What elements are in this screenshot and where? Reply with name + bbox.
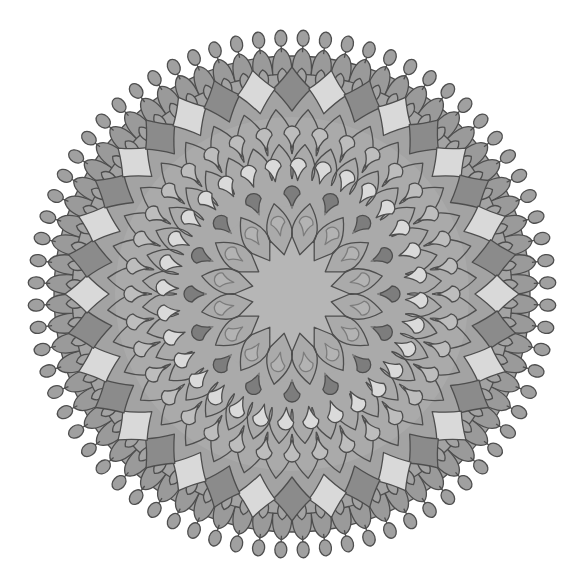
tip-bulb xyxy=(207,529,223,548)
tip-bulb xyxy=(340,35,355,53)
tip-bulb xyxy=(438,487,457,507)
tip-bulb xyxy=(274,30,287,47)
tip-bulb xyxy=(185,48,202,67)
tip-bulb xyxy=(297,30,310,47)
tip-bulb xyxy=(519,187,538,204)
tip-bulb xyxy=(66,422,86,441)
tip-bulb xyxy=(401,511,419,531)
tip-bulb xyxy=(340,535,355,553)
tip-bulb xyxy=(318,539,332,556)
tip-bulb xyxy=(527,363,546,379)
tip-bulb xyxy=(381,521,398,540)
tip-bulb xyxy=(420,68,439,88)
tip-bulb xyxy=(509,403,529,421)
tip-bulb xyxy=(318,31,332,48)
tip-bulb xyxy=(274,542,287,559)
tip-bulb xyxy=(537,320,554,334)
tip-bulb xyxy=(537,254,554,268)
tip-bulb xyxy=(485,440,505,459)
tip-bulb xyxy=(498,422,518,441)
tip-bulb xyxy=(438,81,457,101)
tip-bulb xyxy=(66,147,86,166)
tip-bulb xyxy=(252,539,266,556)
tip-bulb xyxy=(38,363,57,379)
tip-bulb xyxy=(165,57,183,77)
tip-bulb xyxy=(229,535,244,553)
tip-bulb xyxy=(540,276,557,289)
tip-bulb xyxy=(519,383,538,400)
tip-bulb xyxy=(55,167,75,185)
tip-bulb xyxy=(46,187,65,204)
tip-bulb xyxy=(165,511,183,531)
tip-bulb xyxy=(509,167,529,185)
tip-bulb xyxy=(145,500,164,520)
tip-bulb xyxy=(33,231,51,246)
tip-bulb xyxy=(38,209,57,225)
tip-bulb xyxy=(207,40,223,59)
tip-bulb xyxy=(420,500,439,520)
tip-bulb xyxy=(29,320,46,334)
tip-bulb xyxy=(485,129,505,148)
tip-bulb xyxy=(46,383,65,400)
tip-bulb xyxy=(540,299,557,312)
tip-bulb xyxy=(533,342,551,357)
tip-bulb xyxy=(127,487,146,507)
mandala-canvas xyxy=(0,0,569,587)
tip-bulb xyxy=(28,299,45,312)
tip-bulb xyxy=(79,129,99,148)
tip-bulb xyxy=(527,209,546,225)
tip-bulb xyxy=(297,542,310,559)
tip-bulb xyxy=(252,31,266,48)
center-star-shape xyxy=(234,236,350,352)
tip-bulb xyxy=(498,147,518,166)
tip-bulb xyxy=(127,81,146,101)
tip-bulb xyxy=(361,529,377,548)
tip-bulb xyxy=(401,57,419,77)
tip-bulb xyxy=(185,521,202,540)
tip-bulb xyxy=(361,40,377,59)
tip-bulb xyxy=(29,254,46,268)
tip-bulb xyxy=(33,342,51,357)
tip-bulb xyxy=(55,403,75,421)
tip-bulb xyxy=(145,68,164,88)
tip-bulb xyxy=(381,48,398,67)
tip-bulb xyxy=(28,276,45,289)
tip-bulb xyxy=(79,440,99,459)
center-star xyxy=(234,236,350,352)
tip-bulb xyxy=(533,231,551,246)
tip-bulb xyxy=(229,35,244,53)
